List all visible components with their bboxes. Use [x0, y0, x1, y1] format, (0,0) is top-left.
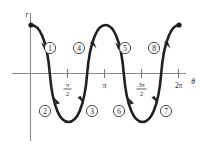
tick-label-pi-over-2-denominator: 2 — [66, 90, 69, 97]
start-endpoint-dot — [28, 22, 33, 27]
segment-label-2: 2 — [39, 105, 50, 116]
x-axis-label: θ — [191, 77, 195, 86]
end-endpoint-dot — [176, 22, 181, 27]
segment-number-4: 4 — [77, 44, 81, 53]
segment-label-4: 4 — [73, 42, 84, 53]
segment-number-3: 3 — [90, 107, 94, 116]
segment-label-5: 5 — [119, 42, 130, 53]
segment-label-6: 6 — [113, 105, 124, 116]
tick-label-pi-over-2-numerator: π — [66, 81, 70, 88]
segment-label-8: 8 — [148, 42, 159, 53]
segment-number-5: 5 — [123, 44, 127, 53]
tick-label-2pi: 2π — [175, 82, 183, 90]
tick-label-pi-over-2: π 2 — [64, 81, 72, 97]
tick-label-pi: π — [103, 82, 107, 90]
tick-label-3pi-over-2-denominator: 2 — [140, 90, 143, 97]
segment-label-1: 1 — [44, 42, 55, 53]
segment-number-6: 6 — [117, 107, 121, 116]
segment-number-8: 8 — [152, 44, 156, 53]
tick-label-3pi-over-2-numerator: 3π — [138, 81, 145, 88]
segment-number-2: 2 — [43, 107, 47, 116]
y-axis-label: r — [26, 10, 29, 19]
segment-label-7: 7 — [160, 105, 171, 116]
graph-figure: r θ π 2 π 3π 2 2π 1 2 3 4 — [0, 0, 201, 149]
segment-number-7: 7 — [164, 107, 168, 116]
tick-label-3pi-over-2: 3π 2 — [137, 81, 147, 97]
coordinate-plot: r θ π 2 π 3π 2 2π 1 2 3 4 — [0, 0, 201, 149]
segment-number-1: 1 — [48, 44, 52, 53]
segment-label-3: 3 — [86, 105, 97, 116]
